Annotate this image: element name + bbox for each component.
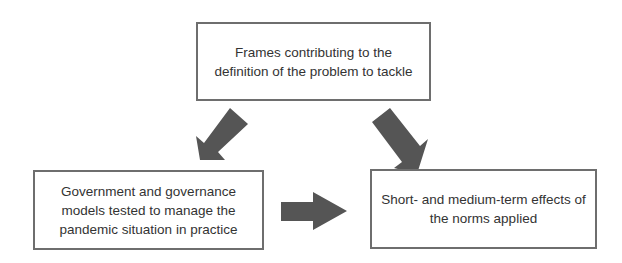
arrow-right-icon (281, 192, 347, 230)
arrow-down-right-icon (372, 108, 428, 174)
box-top-line-2: definition of the problem to tackle (214, 62, 412, 81)
arrow-down-left-icon (196, 108, 248, 160)
box-right-line-1: Short- and medium-term effects of (381, 190, 586, 209)
box-left-line-3: pandemic situation in practice (60, 220, 238, 239)
box-left-line-1: Government and governance (60, 182, 238, 201)
box-top-line-1: Frames contributing to the (214, 43, 412, 62)
box-left-line-2: models tested to manage the (60, 201, 238, 220)
box-problem-framing: Frames contributing to the definition of… (196, 22, 431, 101)
box-governance-models: Government and governance models tested … (33, 170, 264, 250)
box-norm-effects: Short- and medium-term effects of the no… (370, 169, 597, 249)
box-right-line-2: the norms applied (381, 209, 586, 228)
